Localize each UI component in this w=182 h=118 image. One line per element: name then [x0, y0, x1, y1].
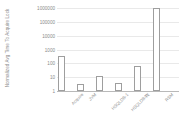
y-axis-tick-labels: 1000000100000100001000100101 [13, 0, 57, 95]
x-tick-label: RSM [164, 92, 174, 102]
x-tick-label: JVM [88, 92, 98, 102]
plot-area [57, 8, 179, 91]
bar [153, 8, 160, 91]
y-tick-label: 100000 [40, 19, 55, 24]
y-tick-label: 10000 [42, 33, 55, 38]
gridline [57, 50, 179, 51]
y-tick-label: 1000000 [37, 6, 55, 11]
bar [96, 76, 103, 91]
y-tick-label: 10 [50, 75, 55, 80]
bar [77, 84, 84, 91]
y-axis-title: Normalized Avg Time To Acquire Lock [5, 8, 10, 87]
x-tick-label: HSQLDB-1 [110, 92, 129, 111]
y-tick-label: 1 [52, 89, 55, 94]
y-tick-label: 100 [47, 61, 55, 66]
gridline [57, 22, 179, 23]
x-axis-tick-labels: AcquireJVMHSQLDB-1HSQLDB-WTLRSMSCoS [57, 92, 182, 118]
gridline [57, 63, 179, 64]
y-tick-label: 1000 [45, 47, 55, 52]
gridline [57, 36, 179, 37]
gridline [57, 77, 179, 78]
x-tick-label: Acquire [70, 92, 84, 106]
bar-chart-figure: Normalized Avg Time To Acquire Lock 1000… [0, 0, 182, 118]
bar [134, 66, 141, 91]
gridline [57, 8, 179, 9]
bar [115, 83, 122, 91]
y-axis-title-container: Normalized Avg Time To Acquire Lock [0, 0, 14, 95]
bar [58, 56, 65, 91]
